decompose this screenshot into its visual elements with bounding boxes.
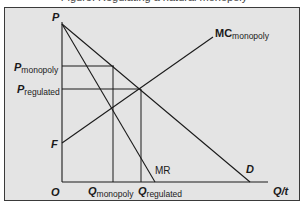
demand-curve — [62, 24, 250, 182]
monopoly-regulation-diagram: P Pmonopoly Pregulated F O Qmonopoly Qre… — [0, 0, 308, 208]
origin-label: O — [51, 186, 60, 198]
q-monopoly-label: Qmonopoly — [88, 185, 134, 199]
y-axis-label: P — [52, 11, 60, 23]
marginal-cost-curve — [62, 37, 213, 143]
p-monopoly-label: Pmonopoly — [14, 61, 59, 75]
f-intercept-label: F — [51, 138, 58, 150]
x-axis-label: Q/t — [273, 185, 290, 197]
demand-label: D — [246, 163, 254, 175]
mc-monopoly-label: MCmonopoly — [215, 27, 270, 41]
mr-label: MR — [155, 165, 171, 176]
p-regulated-label: Pregulated — [17, 83, 60, 97]
q-regulated-label: Qregulated — [138, 185, 182, 199]
